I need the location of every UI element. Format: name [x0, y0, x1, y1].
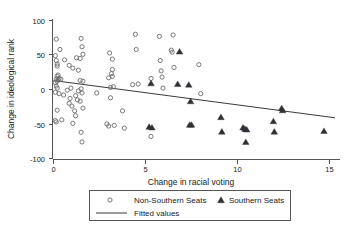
data-point-southern — [219, 129, 226, 135]
y-tick-label-neg100: -100 — [30, 155, 45, 164]
data-point-non-southern — [134, 47, 138, 51]
data-point-non-southern — [107, 76, 111, 80]
data-point-non-southern — [158, 58, 162, 62]
data-point-southern — [176, 49, 183, 55]
x-tick-label-5: 5 — [143, 165, 147, 174]
data-point-non-southern — [79, 36, 83, 40]
x-tick-label-0: 0 — [51, 165, 55, 174]
data-point-non-southern — [199, 92, 203, 96]
data-point-non-southern — [110, 57, 114, 61]
data-point-non-southern — [79, 130, 83, 134]
legend-marker-southern — [218, 197, 225, 203]
data-point-non-southern — [159, 69, 163, 73]
data-point-southern — [242, 139, 249, 145]
data-point-non-southern — [80, 91, 84, 95]
data-point-non-southern — [70, 104, 74, 108]
data-point-non-southern — [161, 86, 165, 90]
legend-border — [90, 191, 291, 221]
y-tick-label-neg50: -50 — [34, 121, 45, 130]
x-ticks-group: 0 5 10 15 — [51, 160, 333, 175]
data-point-southern — [148, 80, 155, 86]
fitted-line-layer — [54, 81, 336, 118]
data-point-southern — [271, 129, 278, 135]
data-point-non-southern — [73, 94, 77, 98]
data-point-southern — [321, 128, 328, 134]
data-point-non-southern — [157, 34, 161, 38]
data-point-non-southern — [58, 47, 62, 51]
non-southern-points-layer — [53, 32, 203, 144]
data-point-non-southern — [131, 83, 135, 87]
legend: Non-Southern Seats Southern Seats Fitted… — [90, 191, 291, 221]
data-point-non-southern — [76, 68, 80, 72]
data-point-non-southern — [108, 51, 112, 55]
data-point-non-southern — [149, 134, 153, 138]
data-point-non-southern — [80, 140, 84, 144]
data-point-non-southern — [54, 37, 58, 41]
y-ticks-group: 100 50 0 -50 -100 — [30, 17, 53, 164]
chart-svg: 100 50 0 -50 -100 0 5 10 15 Change in ra… — [0, 0, 349, 233]
data-point-non-southern — [71, 121, 75, 125]
x-axis-title: Change in racial voting — [148, 177, 235, 187]
data-point-non-southern — [73, 114, 77, 118]
legend-label-southern: Southern Seats — [229, 196, 284, 205]
x-tick-label-10: 10 — [233, 165, 241, 174]
data-point-non-southern — [62, 58, 66, 62]
data-point-non-southern — [57, 92, 61, 96]
data-point-non-southern — [112, 123, 116, 127]
data-point-non-southern — [68, 96, 72, 100]
data-point-southern — [174, 81, 181, 87]
data-point-non-southern — [110, 67, 114, 71]
data-point-non-southern — [109, 72, 113, 76]
data-point-non-southern — [55, 108, 59, 112]
data-point-non-southern — [122, 126, 126, 130]
data-point-non-southern — [65, 88, 69, 92]
data-point-non-southern — [197, 63, 201, 67]
x-tick-label-15: 15 — [325, 165, 333, 174]
data-point-non-southern — [160, 75, 164, 79]
y-tick-label-50: 50 — [37, 51, 45, 60]
data-point-non-southern — [60, 118, 64, 122]
data-point-non-southern — [120, 109, 124, 113]
data-point-non-southern — [95, 91, 99, 95]
data-point-non-southern — [108, 96, 112, 100]
axes-group — [53, 19, 341, 160]
data-point-non-southern — [171, 33, 175, 37]
data-point-non-southern — [81, 106, 85, 110]
data-point-non-southern — [71, 66, 75, 70]
scatter-plot-figure: 100 50 0 -50 -100 0 5 10 15 Change in ra… — [0, 0, 349, 233]
y-tick-label-0: 0 — [41, 86, 45, 95]
data-point-non-southern — [136, 82, 140, 86]
data-point-non-southern — [67, 63, 71, 67]
legend-label-non-southern: Non-Southern Seats — [134, 196, 207, 205]
data-point-non-southern — [73, 109, 77, 113]
legend-marker-non-southern — [108, 198, 112, 202]
data-point-non-southern — [62, 93, 66, 97]
y-axis-title: Change in ideological rank — [6, 38, 16, 139]
data-point-non-southern — [80, 45, 84, 49]
data-point-non-southern — [133, 32, 137, 36]
data-point-southern — [185, 82, 192, 88]
data-point-southern — [270, 118, 277, 124]
legend-label-fitted-values: Fitted values — [134, 209, 179, 218]
data-point-southern — [218, 114, 225, 120]
data-point-non-southern — [172, 65, 176, 69]
y-tick-label-100: 100 — [32, 17, 45, 26]
data-point-non-southern — [81, 52, 85, 56]
data-point-non-southern — [53, 54, 57, 58]
fitted-values-line — [54, 81, 336, 118]
data-point-non-southern — [81, 79, 85, 83]
